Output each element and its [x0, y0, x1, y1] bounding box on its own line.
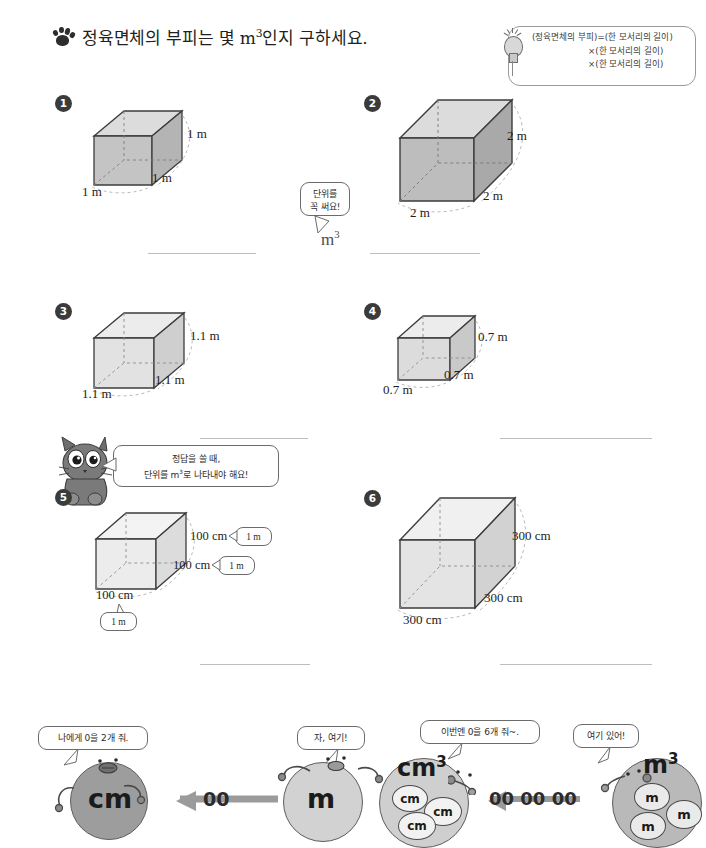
cm3-inner-unit: cm [398, 812, 436, 840]
page-title: 정육면체의 부피는 몇 m3인지 구하세요. [52, 24, 368, 49]
formula-line-1: (정육면체의 부피)=(한 모서리의 길이) [532, 31, 698, 45]
cm-character-face-icon [90, 755, 134, 775]
cat-tip-bubble-tail [100, 456, 118, 476]
cm3-label-base: cm [397, 754, 436, 782]
instruction-pre: 정육면체의 부피는 몇 [82, 28, 240, 48]
cm3-request-bubble-tail [444, 742, 466, 762]
problem-number-badge: 1 [55, 95, 72, 112]
cat-tip-bubble: 정답을 쓸 때, 단위를 m3로 나타내야 해요! [113, 445, 279, 487]
lightbulb-icon [498, 24, 528, 76]
cm3-label-superscript: 3 [436, 753, 447, 771]
m3-reply-bubble-tail [594, 746, 616, 766]
instruction-unit: m [240, 28, 256, 48]
instruction-text: 정육면체의 부피는 몇 m3인지 구하세요. [82, 24, 368, 49]
problem-number-badge: 4 [364, 303, 381, 320]
paw-print-icon [52, 27, 74, 47]
cube-4-width-label: 0.7 m [383, 382, 413, 398]
cube-1-width-label: 1 m [82, 184, 102, 200]
cat-tip-line-2: 단위를 m3로 나타내야 해요! [114, 466, 278, 482]
m3-inner-unit: m [666, 800, 702, 829]
cube-figure-1 [86, 103, 196, 199]
cm3-inner-unit: cm [392, 785, 428, 812]
m3-reply-bubble: 여기 있어! [573, 724, 639, 748]
cm-request-bubble: 나에게 0을 2개 줘. [38, 726, 148, 750]
m3-label-superscript: 3 [668, 750, 679, 768]
unit-tip-line-1: 단위를 [301, 188, 349, 201]
cube-2-depth-label: 2 m [483, 188, 503, 204]
answer-line-6[interactable] [500, 664, 652, 665]
problem-number-badge: 3 [55, 303, 72, 320]
unit-answer-superscript: 3 [334, 228, 339, 240]
unit-tip-line-2: 꼭 써요! [301, 201, 349, 214]
m3-inner-unit: m [630, 812, 666, 840]
cube-4-height-label: 0.7 m [478, 329, 508, 345]
cube-figure-4 [390, 310, 490, 392]
problem-number-badge: 5 [55, 489, 72, 506]
zeros-right-label: 00 00 00 [489, 788, 577, 809]
unit-tip-bubble: 단위를 꼭 써요! [300, 182, 350, 216]
m-reply-bubble: 자, 여기! [297, 726, 365, 750]
cm3-request-bubble: 이번엔 0을 6개 줘~. [420, 720, 540, 744]
formula-line-2: ×(한 모서리의 길이) [532, 45, 698, 59]
cube-5-width-label: 100 cm [96, 588, 133, 603]
m-character-label: m [307, 783, 335, 814]
cube-3-height-label: 1.1 m [190, 328, 220, 344]
cat-tip-line-2-pre: 단위를 m [144, 470, 180, 480]
zeros-left-label: 00 [203, 788, 229, 810]
cube-3-depth-label: 1.1 m [155, 372, 185, 388]
answer-line-5[interactable] [200, 664, 310, 665]
cat-tip-line-1: 정답을 쓸 때, [114, 453, 278, 466]
cube-4-depth-label: 0.7 m [444, 367, 474, 383]
m3-inner-unit: m [634, 783, 670, 811]
cube-5-depth-label: 100 cm [173, 558, 210, 573]
cm-request-bubble-tail [60, 748, 82, 768]
problem-number-badge: 2 [364, 95, 381, 112]
cube-1-depth-label: 1 m [152, 170, 172, 186]
cube-5-depth-callout: 1 m [218, 556, 255, 575]
cube-figure-6 [390, 490, 535, 630]
cat-tip-line-2-post: 로 나타내야 해요! [183, 470, 248, 480]
unit-answer-m3: m3 [321, 228, 340, 250]
formula-hint-text: (정육면체의 부피)=(한 모서리의 길이) ×(한 모서리의 길이) ×(한 … [532, 31, 698, 72]
cube-1-height-label: 1 m [187, 126, 207, 142]
formula-line-3: ×(한 모서리의 길이) [532, 58, 698, 72]
cube-3-width-label: 1.1 m [82, 386, 112, 402]
cube-figure-2 [390, 90, 530, 220]
cube-figure-5 [86, 505, 206, 601]
answer-line-4[interactable] [500, 438, 652, 439]
cm-character-label: cm [88, 783, 132, 814]
answer-line-3[interactable] [200, 438, 308, 439]
cube-2-height-label: 2 m [507, 128, 527, 144]
cube-5-height-callout-tail [228, 530, 238, 544]
problem-number-badge: 6 [364, 490, 381, 507]
cube-5-width-callout: 1 m [100, 612, 137, 631]
cube-5-depth-callout-tail [211, 559, 221, 573]
cube-6-height-label: 300 cm [512, 528, 551, 544]
instruction-post: 인지 구하세요. [262, 28, 367, 48]
cube-2-width-label: 2 m [410, 205, 430, 221]
unit-answer-base: m [321, 230, 334, 249]
cube-6-depth-label: 300 cm [484, 590, 523, 606]
cube-6-width-label: 300 cm [403, 612, 442, 628]
cm3-character-label: cm3 [397, 753, 447, 782]
answer-line-1[interactable] [148, 253, 256, 254]
cube-5-height-callout: 1 m [235, 527, 272, 546]
answer-line-2[interactable] [370, 253, 480, 254]
cube-5-height-label: 100 cm [190, 529, 227, 544]
